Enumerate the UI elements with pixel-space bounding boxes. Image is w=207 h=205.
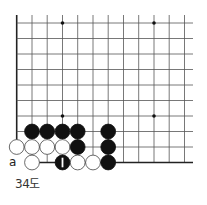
white-stone [9, 140, 24, 155]
white-stone [25, 140, 40, 155]
white-stone [40, 140, 55, 155]
white-stone [25, 155, 40, 170]
black-stone [40, 124, 55, 139]
black-stone [101, 140, 116, 155]
black-stone [101, 124, 116, 139]
diagram-caption: 34도 [15, 174, 40, 191]
point-label-a: a [9, 155, 16, 169]
star-point [61, 21, 65, 25]
black-stone [70, 140, 85, 155]
white-stone [86, 155, 101, 170]
star-point [61, 114, 65, 118]
black-stone [55, 124, 70, 139]
black-stone [101, 155, 116, 170]
black-stone [55, 155, 70, 170]
black-stone [70, 124, 85, 139]
move-number-1-mark [62, 158, 64, 168]
star-point [152, 21, 156, 25]
white-stone [70, 155, 85, 170]
star-point [152, 114, 156, 118]
black-stone [25, 124, 40, 139]
white-stone [55, 140, 70, 155]
